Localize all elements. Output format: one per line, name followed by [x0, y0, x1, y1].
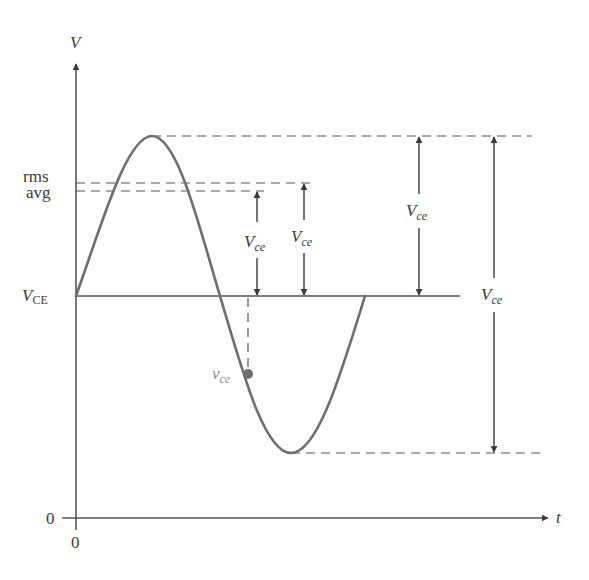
dimension-rms-amplitude: Vce [291, 184, 313, 295]
svg-text:Vce: Vce [481, 285, 503, 307]
vce-waveform-diagram: V t 0 0 VCE rms avg vce Vce [0, 0, 589, 580]
dimension-avg-amplitude: Vce [244, 192, 266, 295]
dimension-peak-to-peak: Vce [481, 137, 503, 452]
dimension-peak-amplitude: Vce [406, 137, 428, 295]
instantaneous-point [243, 369, 253, 379]
svg-text:Vce: Vce [244, 232, 266, 254]
avg-label: avg [26, 183, 51, 202]
x-origin-label: 0 [71, 533, 80, 552]
x-axis: t 0 0 [46, 508, 562, 552]
y-axis-label: V [70, 33, 83, 52]
svg-text:Vce: Vce [406, 201, 428, 223]
x-axis-label: t [556, 508, 562, 527]
svg-text:Vce: Vce [291, 227, 313, 249]
reference-lines [76, 136, 542, 453]
instantaneous-label: vce [212, 364, 231, 386]
sine-waveform [76, 136, 365, 453]
y-origin-label: 0 [46, 509, 55, 528]
dc-level-line: VCE [22, 286, 460, 307]
dc-level-label: VCE [22, 286, 48, 307]
